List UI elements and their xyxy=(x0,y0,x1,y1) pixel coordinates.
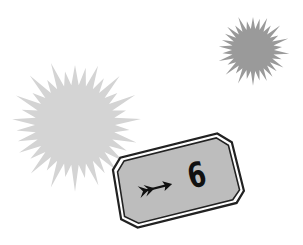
move-count-badge: 6 xyxy=(107,131,247,231)
game-scene: 6 xyxy=(0,0,303,245)
badge-inner-border xyxy=(111,135,241,226)
small-dark-burst-icon xyxy=(219,17,289,86)
